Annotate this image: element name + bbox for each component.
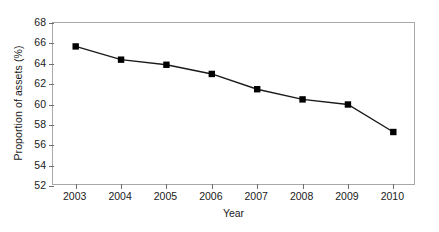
y-tick-label: 68 [22, 17, 46, 27]
y-tick-label: 54 [22, 160, 46, 170]
data-series-line [53, 23, 416, 186]
data-point-marker [118, 56, 124, 62]
data-point-marker [72, 43, 78, 49]
y-tick-mark [49, 125, 54, 126]
x-tick-mark [303, 184, 304, 189]
y-tick-mark [49, 145, 54, 146]
chart-figure: Proportion of assets (%) 525456586062646… [0, 0, 439, 232]
x-axis-tick-labels: 20032004200520062007200820092010 [52, 190, 415, 204]
x-tick-mark [166, 184, 167, 189]
x-tick-mark [212, 184, 213, 189]
y-tick-mark [49, 43, 54, 44]
data-point-marker [299, 96, 305, 102]
x-tick-mark [257, 184, 258, 189]
x-tick-label: 2010 [362, 190, 422, 202]
x-tick-mark [76, 184, 77, 189]
data-point-marker [209, 71, 215, 77]
data-point-marker [254, 86, 260, 92]
plot-area [52, 22, 415, 185]
y-axis-tick-labels: 525456586062646668 [22, 22, 46, 185]
x-tick-mark [348, 184, 349, 189]
data-point-marker [163, 62, 169, 68]
x-tick-mark [393, 184, 394, 189]
x-axis-title: Year [52, 206, 415, 220]
y-tick-mark [49, 84, 54, 85]
y-tick-label: 60 [22, 99, 46, 109]
y-tick-label: 58 [22, 119, 46, 129]
y-tick-mark [49, 105, 54, 106]
y-tick-mark [49, 64, 54, 65]
y-tick-mark [49, 186, 54, 187]
data-point-marker [345, 101, 351, 107]
y-tick-label: 56 [22, 139, 46, 149]
y-tick-label: 62 [22, 78, 46, 88]
x-tick-mark [121, 184, 122, 189]
y-tick-mark [49, 23, 54, 24]
y-tick-label: 66 [22, 37, 46, 47]
y-tick-mark [49, 166, 54, 167]
data-point-marker [390, 129, 396, 135]
y-tick-label: 64 [22, 58, 46, 68]
y-tick-label: 52 [22, 180, 46, 190]
